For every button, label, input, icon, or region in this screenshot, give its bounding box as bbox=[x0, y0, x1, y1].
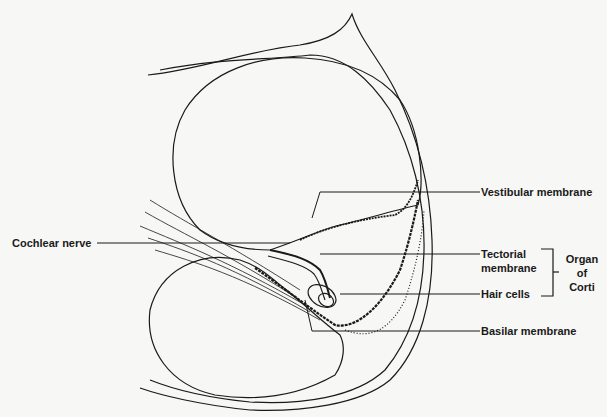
vestibular-membrane bbox=[300, 180, 418, 240]
scala-vestibuli bbox=[173, 58, 421, 250]
label-tectorial-line2: membrane bbox=[481, 262, 537, 275]
label-hair-cells: Hair cells bbox=[481, 288, 530, 301]
label-basilar-membrane: Basilar membrane bbox=[481, 325, 576, 338]
label-organ-of-corti-line1: Organ bbox=[564, 253, 600, 266]
leader-basilar-membrane bbox=[305, 300, 480, 331]
organ-of-corti-bracket bbox=[541, 249, 553, 296]
outer-wall-inner bbox=[150, 55, 424, 403]
cochlea-illustration bbox=[0, 0, 607, 417]
label-organ-of-corti-line3: Corti bbox=[564, 281, 600, 294]
cochlea-diagram: Vestibular membrane Cochlear nerve Tecto… bbox=[0, 0, 607, 417]
label-tectorial-line1: Tectorial bbox=[481, 248, 526, 261]
basilar-membrane bbox=[255, 200, 418, 326]
hair-cells-region bbox=[304, 280, 340, 312]
cochlear-nerve-fibers bbox=[140, 200, 320, 320]
label-cochlear-nerve: Cochlear nerve bbox=[12, 237, 91, 250]
label-vestibular-membrane: Vestibular membrane bbox=[481, 186, 592, 199]
label-organ-of-corti-line2: of bbox=[564, 267, 600, 280]
scala-tympani bbox=[149, 257, 343, 397]
